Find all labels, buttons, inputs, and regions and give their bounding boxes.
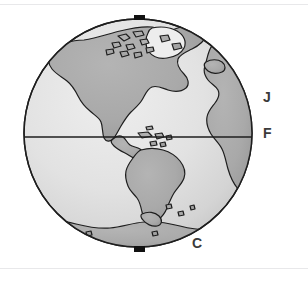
south-pole-marker: [134, 246, 145, 252]
globe-figure: J F C: [0, 0, 308, 281]
antarctica-landmass: [40, 220, 248, 248]
label-f: F: [263, 126, 272, 140]
label-c: C: [192, 236, 202, 250]
figure-page: J F C: [0, 0, 308, 281]
globe-icon: [0, 0, 308, 281]
label-j: J: [263, 90, 271, 104]
north-pole-marker: [134, 15, 145, 20]
